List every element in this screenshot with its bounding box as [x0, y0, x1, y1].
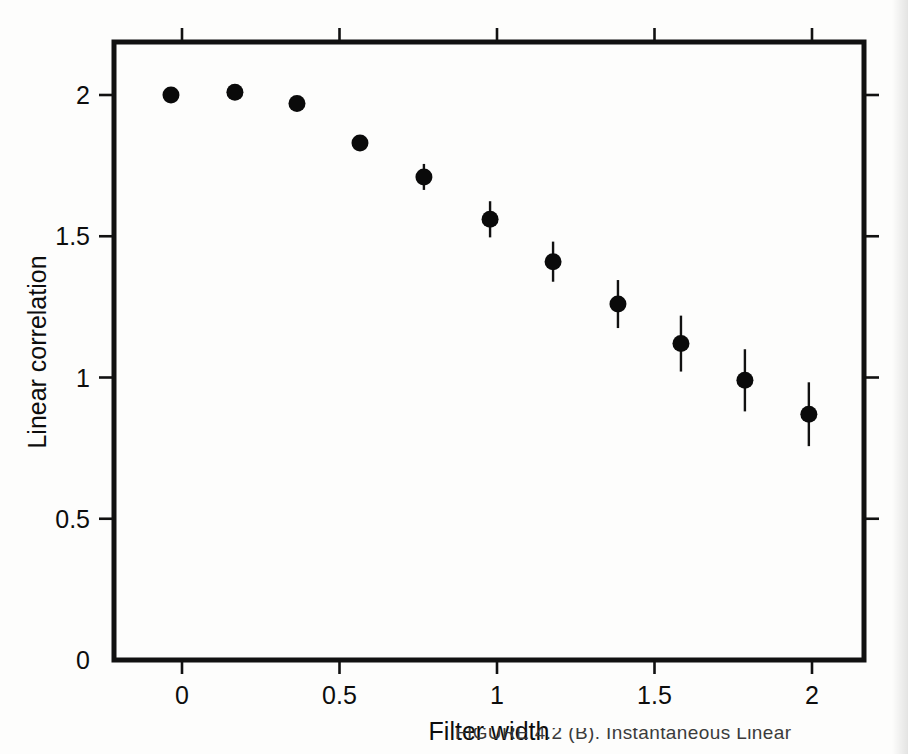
- x-axis-ticks: [182, 28, 812, 674]
- x-tick-label-3: 1.5: [637, 681, 672, 709]
- data-point-4: [415, 168, 432, 185]
- scatter-plot-svg: 00.511.52 00.511.52 Filter width Linear …: [0, 0, 908, 754]
- y-axis-ticks: [99, 95, 879, 519]
- axis-frame-path: [114, 42, 864, 660]
- data-point-2: [288, 95, 305, 112]
- data-point-9: [736, 372, 753, 389]
- data-point-3: [351, 135, 368, 152]
- data-point-5: [482, 211, 499, 228]
- x-tick-label-4: 2: [805, 681, 819, 709]
- data-point-8: [672, 335, 689, 352]
- y-tick-label-2: 1: [76, 364, 90, 392]
- data-point-10: [800, 406, 817, 423]
- y-tick-label-4: 2: [76, 81, 90, 109]
- y-tick-label-1: 0.5: [55, 505, 90, 533]
- data-point-markers: [162, 84, 817, 423]
- figure-container: 00.511.52 00.511.52 Filter width Linear …: [0, 0, 908, 754]
- x-tick-label-0: 0: [175, 681, 189, 709]
- data-point-6: [545, 253, 562, 270]
- y-axis-title: Linear correlation: [23, 255, 51, 448]
- x-tick-label-1: 0.5: [322, 681, 357, 709]
- caption-strip: FIGURE 4.2 (B). Instantaneous Linear: [0, 728, 908, 754]
- y-axis-tick-labels: 00.511.52: [55, 81, 90, 674]
- data-point-0: [162, 87, 179, 104]
- y-tick-label-3: 1.5: [55, 222, 90, 250]
- plot-frame: [114, 42, 864, 660]
- x-tick-label-2: 1: [490, 681, 504, 709]
- data-point-1: [226, 84, 243, 101]
- y-tick-label-0: 0: [76, 646, 90, 674]
- error-bars: [360, 140, 809, 447]
- figure-caption-partial: FIGURE 4.2 (B). Instantaneous Linear: [455, 728, 792, 744]
- x-axis-tick-labels: 00.511.52: [175, 681, 819, 709]
- data-point-7: [609, 296, 626, 313]
